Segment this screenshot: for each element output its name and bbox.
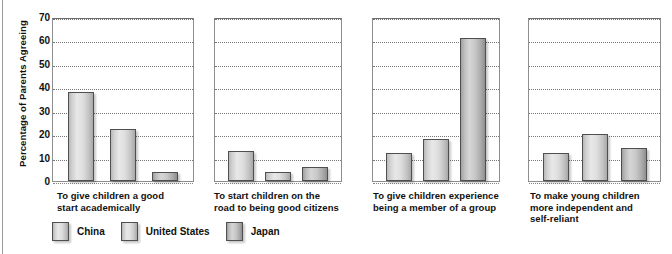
bar-united-states	[423, 139, 449, 181]
bar-united-states	[265, 172, 291, 181]
panel-group-member	[372, 18, 500, 182]
y-tick-60: 60	[20, 35, 50, 47]
gridline-0	[215, 183, 341, 184]
y-tick-70: 70	[20, 12, 50, 24]
bar-japan	[621, 148, 647, 181]
legend-label: China	[77, 226, 105, 237]
panel-academic-start	[52, 18, 194, 182]
gridline-0	[53, 183, 193, 184]
chart-legend: ChinaUnited StatesJapan	[52, 222, 280, 241]
bar-china	[543, 153, 569, 181]
bar-group	[215, 19, 341, 181]
y-axis-tick-labels: 706050403020100	[20, 12, 50, 188]
category-label-line: being a member of a group	[373, 202, 523, 214]
bar-japan	[302, 167, 328, 181]
category-label-line: start academically	[57, 202, 197, 214]
legend-item-china[interactable]: China	[52, 222, 105, 241]
bar-group	[53, 19, 193, 181]
y-tick-10: 10	[20, 153, 50, 165]
legend-item-japan[interactable]: Japan	[226, 222, 280, 241]
category-label-line: To start children on the	[214, 190, 356, 202]
legend-item-united-states[interactable]: United States	[121, 222, 210, 241]
bar-china	[386, 153, 412, 181]
legend-swatch-icon	[226, 222, 243, 241]
y-tick-0: 0	[20, 176, 50, 188]
bar-group	[373, 19, 499, 181]
bar-group	[529, 19, 660, 181]
category-label-0: To give children a goodstart academicall…	[57, 190, 197, 213]
bar-japan	[460, 38, 486, 181]
category-label-line: To give children a good	[57, 190, 197, 202]
y-tick-30: 30	[20, 106, 50, 118]
bar-china	[228, 151, 254, 181]
panel-independent	[528, 18, 661, 182]
y-tick-50: 50	[20, 59, 50, 71]
bar-japan	[152, 172, 178, 181]
legend-swatch-icon	[52, 222, 69, 241]
gridline-0	[373, 183, 499, 184]
page-edge-rule	[2, 0, 3, 254]
y-tick-20: 20	[20, 129, 50, 141]
gridline-0	[529, 183, 660, 184]
legend-swatch-icon	[121, 222, 138, 241]
y-tick-40: 40	[20, 82, 50, 94]
legend-label: Japan	[251, 226, 280, 237]
bar-united-states	[582, 134, 608, 181]
category-label-2: To give children experiencebeing a membe…	[373, 190, 523, 213]
bar-chart-figure: Percentage of Parents Agreeing 706050403…	[0, 0, 672, 254]
category-label-line: more independent and	[530, 202, 665, 214]
panel-good-citizens	[214, 18, 342, 182]
bar-china	[68, 92, 94, 181]
legend-label: United States	[146, 226, 210, 237]
category-label-line: To give children experience	[373, 190, 523, 202]
category-label-line: self-reliant	[530, 213, 665, 225]
category-label-line: To make young children	[530, 190, 665, 202]
bar-united-states	[110, 129, 136, 181]
category-label-3: To make young childrenmore independent a…	[530, 190, 665, 225]
category-label-line: road to being good citizens	[214, 202, 356, 214]
category-label-1: To start children on theroad to being go…	[214, 190, 356, 213]
